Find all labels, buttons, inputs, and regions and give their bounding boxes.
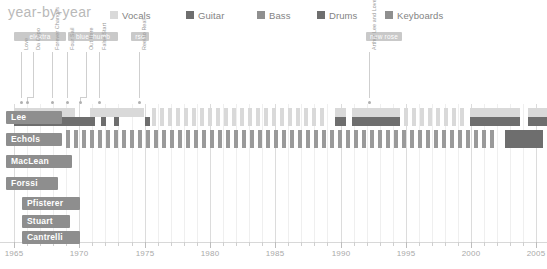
row-label-echols[interactable]: Echols <box>6 133 62 146</box>
legend-item-bass[interactable]: Bass <box>257 6 291 20</box>
row-label-lee[interactable]: Lee <box>6 111 62 124</box>
bar-segment <box>434 130 438 148</box>
bar-segment <box>242 130 246 148</box>
axis-label-1965: 1965 <box>5 249 24 258</box>
bar-segment <box>224 108 228 126</box>
axis-tick-2002 <box>497 242 498 246</box>
legend-swatch-icon <box>110 11 118 19</box>
bar-segment <box>248 108 252 126</box>
legend-item-vocals[interactable]: Vocals <box>110 6 151 20</box>
legend-item-keyboards[interactable]: Keyboards <box>385 6 443 20</box>
row-label-stuart[interactable]: Stuart <box>22 215 70 228</box>
bar-segment <box>482 130 486 148</box>
row-label-text: Forssi <box>6 177 58 190</box>
bar-segment <box>470 117 520 126</box>
bar-segment <box>218 130 222 148</box>
bar-segment <box>178 130 182 148</box>
bar-segment <box>426 130 430 148</box>
bar-segment <box>528 117 547 126</box>
axis-label-2005: 2005 <box>527 249 546 258</box>
row-label-maclean[interactable]: MacLean <box>6 155 72 168</box>
bar-segment <box>320 108 324 126</box>
annotation-label: Reel to Real <box>141 19 147 50</box>
axis-tick-1972 <box>105 242 106 246</box>
bar-segment <box>154 130 158 148</box>
bar-segment <box>186 130 190 148</box>
axis-tick-1974 <box>132 242 133 246</box>
axis-tick-1971 <box>92 242 93 246</box>
axis-tick-1978 <box>184 242 185 246</box>
chart-row-echols: Echols <box>0 130 547 148</box>
axis-label-1985: 1985 <box>266 249 285 258</box>
axis-tick-1990 <box>341 242 342 248</box>
chart-row-lee: Lee <box>0 108 547 126</box>
bar-segment <box>74 130 78 148</box>
annotation-label: Da Capo <box>35 28 41 50</box>
bar-segment <box>362 130 366 148</box>
bar-segment <box>274 130 278 148</box>
bar-segment <box>312 108 316 126</box>
row-label-text: Lee <box>6 111 62 124</box>
bar-segment <box>466 130 470 148</box>
bar-segment <box>122 130 126 148</box>
bar-segment <box>264 108 268 126</box>
bar-segment <box>170 130 174 148</box>
row-label-forssi[interactable]: Forssi <box>6 177 58 190</box>
bar-segment <box>288 108 292 126</box>
axis-label-1990: 1990 <box>332 249 351 258</box>
bar-segment <box>505 130 543 148</box>
bar-segment <box>322 130 326 148</box>
bar-segment <box>138 130 142 148</box>
bar-segment <box>378 130 382 148</box>
bar-segment <box>210 130 214 148</box>
bar-segment <box>145 117 150 126</box>
bar-segment <box>474 130 478 148</box>
row-label-cantrelli[interactable]: Cantrelli <box>22 231 80 244</box>
chart-row-pfisterer: Pfisterer <box>0 194 547 212</box>
axis-tick-1997 <box>432 242 433 246</box>
annotation-stem <box>99 52 100 98</box>
axis-tick-1977 <box>171 242 172 246</box>
row-label-text: Stuart <box>22 215 70 228</box>
bar-segment <box>176 108 180 126</box>
bar-segment <box>101 117 106 126</box>
annotation-stem <box>86 52 87 98</box>
annotation-stem <box>21 52 22 98</box>
bar-segment <box>528 108 547 117</box>
bar-segment <box>394 130 398 148</box>
bar-segment <box>194 130 198 148</box>
axis-tick-1987 <box>301 242 302 246</box>
bar-segment <box>436 108 440 126</box>
annotation-stem <box>139 52 140 98</box>
legend-item-drums[interactable]: Drums <box>317 6 357 20</box>
bar-segment <box>216 108 220 126</box>
bar-segment <box>90 130 94 148</box>
axis-tick-1993 <box>380 242 381 246</box>
axis-tick-1976 <box>158 242 159 246</box>
bar-segment <box>420 108 424 126</box>
bar-segment <box>386 130 390 148</box>
legend-swatch-icon <box>317 11 325 19</box>
bar-segment <box>370 130 374 148</box>
axis-tick-2001 <box>484 242 485 246</box>
legend-swatch-icon <box>385 11 393 19</box>
bar-segment <box>452 108 456 126</box>
axis-tick-1979 <box>197 242 198 246</box>
row-label-pfisterer[interactable]: Pfisterer <box>22 197 80 210</box>
chart-row-forssi: Forssi <box>0 174 547 192</box>
row-label-text: MacLean <box>6 155 72 168</box>
bar-segment <box>490 130 494 148</box>
annotation-label: Love <box>23 38 29 50</box>
legend-item-guitar[interactable]: Guitar <box>186 6 224 20</box>
bar-segment <box>202 130 206 148</box>
bar-segment <box>338 130 342 148</box>
axis-tick-2003 <box>510 242 511 246</box>
axis-tick-1999 <box>458 242 459 246</box>
axis-tick-1984 <box>262 242 263 246</box>
bar-segment <box>280 108 284 126</box>
bar-segment <box>330 130 334 148</box>
bar-segment <box>304 108 308 126</box>
bar-segment <box>470 108 520 117</box>
legend-label: Keyboards <box>397 10 443 21</box>
bar-segment <box>410 130 414 148</box>
